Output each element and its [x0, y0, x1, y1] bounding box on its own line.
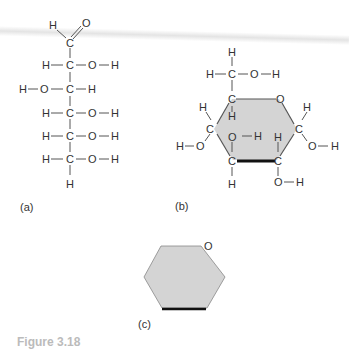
- svg-text:C: C: [66, 37, 74, 49]
- svg-text:C: C: [274, 155, 282, 167]
- svg-text:H: H: [111, 59, 119, 71]
- svg-text:H: H: [111, 130, 119, 142]
- svg-text:H: H: [111, 107, 119, 119]
- svg-text:C: C: [228, 155, 236, 167]
- panel-b-ring: H H C O H C O H H C C H H O O H O H H C …: [176, 46, 339, 190]
- svg-text:H: H: [176, 140, 184, 152]
- svg-text:H: H: [274, 131, 282, 143]
- svg-text:H: H: [49, 19, 57, 31]
- svg-text:C: C: [66, 130, 74, 142]
- svg-text:H: H: [42, 107, 50, 119]
- svg-text:C: C: [66, 107, 74, 119]
- svg-text:H: H: [296, 176, 304, 188]
- svg-text:C: C: [206, 123, 214, 135]
- svg-text:H: H: [254, 130, 262, 142]
- svg-text:O: O: [228, 131, 237, 143]
- svg-text:C: C: [66, 153, 74, 165]
- panel-c-hexagon: O: [144, 240, 225, 309]
- svg-text:H: H: [228, 178, 236, 190]
- svg-text:C: C: [228, 93, 236, 105]
- svg-text:O: O: [196, 140, 205, 152]
- svg-text:H: H: [228, 110, 236, 122]
- svg-text:O: O: [308, 140, 317, 152]
- panel-a-atoms: H O C HCOH HOCH HCOH HCOH HCOH H: [19, 17, 119, 190]
- svg-text:H: H: [272, 68, 280, 80]
- svg-text:H: H: [111, 153, 119, 165]
- svg-text:H: H: [199, 101, 207, 113]
- svg-text:O: O: [88, 130, 97, 142]
- svg-text:O: O: [88, 153, 97, 165]
- svg-text:H: H: [66, 178, 74, 190]
- svg-text:C: C: [66, 83, 74, 95]
- panel-b-label: (b): [175, 200, 188, 212]
- svg-text:H: H: [228, 46, 236, 58]
- figure-caption: Figure 3.18: [17, 335, 80, 349]
- panel-a-label: (a): [20, 201, 33, 213]
- svg-text:H: H: [42, 153, 50, 165]
- svg-text:O: O: [250, 68, 259, 80]
- svg-text:H: H: [206, 68, 214, 80]
- svg-text:H: H: [331, 140, 339, 152]
- svg-text:H: H: [42, 130, 50, 142]
- svg-text:H: H: [42, 59, 50, 71]
- svg-text:O: O: [204, 240, 213, 252]
- svg-text:C: C: [66, 59, 74, 71]
- svg-text:O: O: [276, 93, 285, 105]
- panel-c-label: (c): [138, 318, 151, 330]
- svg-text:C: C: [228, 68, 236, 80]
- svg-text:H: H: [88, 83, 96, 95]
- svg-text:O: O: [88, 59, 97, 71]
- svg-text:O: O: [274, 176, 283, 188]
- svg-text:O: O: [88, 107, 97, 119]
- svg-text:H: H: [303, 101, 311, 113]
- svg-text:O: O: [40, 83, 49, 95]
- svg-text:O: O: [82, 17, 91, 29]
- svg-text:C: C: [295, 123, 303, 135]
- svg-text:H: H: [19, 83, 27, 95]
